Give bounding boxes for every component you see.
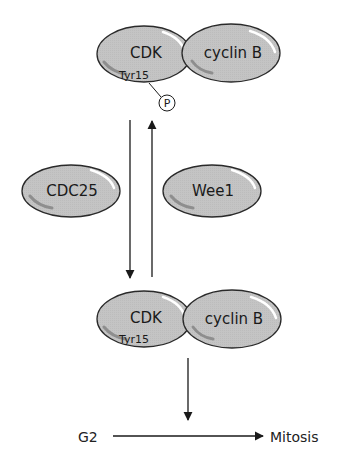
top-complex: CDK Tyr15 cyclin B P bbox=[97, 24, 280, 111]
phosphate-label: P bbox=[164, 97, 171, 110]
phosphate-group: P bbox=[159, 95, 175, 111]
bottom-cdk-label: CDK bbox=[130, 309, 163, 327]
bottom-tyr15-label: Tyr15 bbox=[118, 333, 149, 346]
top-cdk-protein: CDK Tyr15 bbox=[97, 26, 191, 82]
bottom-cdk-protein: CDK Tyr15 bbox=[97, 291, 191, 347]
top-tyr15-label: Tyr15 bbox=[118, 69, 149, 82]
phosphate-bond bbox=[149, 83, 161, 97]
wee1-label: Wee1 bbox=[192, 182, 234, 200]
top-cyclin-b-protein: cyclin B bbox=[182, 24, 280, 82]
top-cyclin-b-label: cyclin B bbox=[204, 44, 262, 62]
g2-label: G2 bbox=[78, 429, 98, 445]
mitosis-label: Mitosis bbox=[270, 429, 319, 445]
cdc25-protein: CDC25 bbox=[22, 165, 120, 217]
diagram-canvas: CDK Tyr15 cyclin B P CDC25 Wee1 bbox=[0, 0, 337, 470]
bottom-cyclin-b-label: cyclin B bbox=[205, 310, 263, 328]
bottom-complex: CDK Tyr15 cyclin B bbox=[97, 290, 281, 348]
wee1-protein: Wee1 bbox=[163, 165, 261, 217]
top-cdk-label: CDK bbox=[130, 44, 163, 62]
bottom-cyclin-b-protein: cyclin B bbox=[183, 290, 281, 348]
cdc25-label: CDC25 bbox=[46, 182, 98, 200]
